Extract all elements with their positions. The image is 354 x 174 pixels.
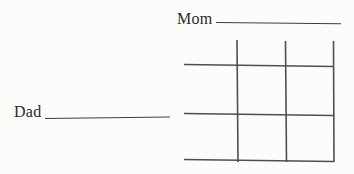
punnett-square-diagram: Mom Dad <box>0 0 354 174</box>
grid-vertical-line-2 <box>286 41 287 162</box>
grid-horizontal-line-3 <box>184 160 334 162</box>
punnett-grid <box>0 0 354 174</box>
grid-vertical-line-1 <box>237 40 238 162</box>
grid-horizontal-line-1 <box>184 65 334 67</box>
grid-horizontal-line-2 <box>184 114 334 116</box>
grid-vertical-line-3 <box>334 41 335 162</box>
